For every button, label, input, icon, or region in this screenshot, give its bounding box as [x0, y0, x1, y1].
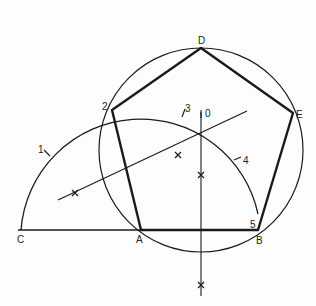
cross-mark-mid — [175, 152, 181, 158]
tick-4 — [234, 157, 241, 160]
label-c: C — [17, 234, 24, 245]
diagram-svg: C A B D E 0 1 2 3 4 5 — [0, 0, 316, 306]
construction-arc — [21, 119, 258, 230]
label-1: 1 — [38, 144, 44, 155]
label-5: 5 — [250, 219, 256, 230]
label-b: B — [256, 235, 263, 246]
pentagon — [112, 48, 293, 230]
label-d: D — [198, 35, 205, 46]
label-e: E — [296, 109, 303, 120]
label-a: A — [136, 234, 143, 245]
bisector-line-slanted — [58, 111, 247, 200]
label-4: 4 — [243, 155, 249, 166]
label-2: 2 — [102, 101, 108, 112]
label-o: 0 — [205, 108, 211, 119]
pentagon-construction-diagram: C A B D E 0 1 2 3 4 5 — [0, 0, 316, 306]
tick-1 — [44, 150, 50, 156]
label-3: 3 — [185, 103, 191, 114]
